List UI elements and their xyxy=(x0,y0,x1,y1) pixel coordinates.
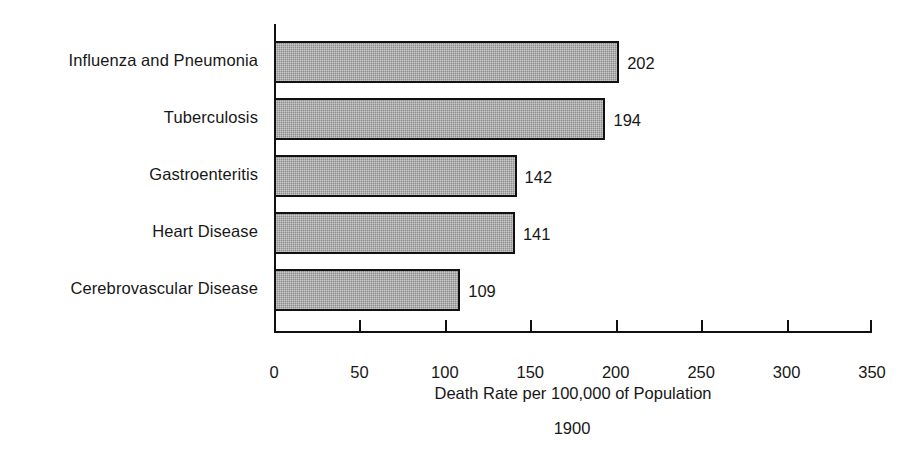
bar-chart: Influenza and Pneumonia Tuberculosis Gas… xyxy=(0,0,922,463)
x-tick-7 xyxy=(870,320,872,333)
x-tick-6 xyxy=(787,320,789,333)
value-label-4: 109 xyxy=(468,283,496,300)
value-label-2: 142 xyxy=(525,169,553,186)
x-tick-label-0: 0 xyxy=(269,364,278,381)
value-label-3: 141 xyxy=(523,226,551,243)
bar-3 xyxy=(274,212,515,254)
value-label-1: 194 xyxy=(613,112,641,129)
x-tick-1 xyxy=(359,320,361,333)
x-axis-title-text: Death Rate per 100,000 of Population xyxy=(434,385,711,402)
bar-1 xyxy=(274,98,605,140)
x-axis-title: Death Rate per 100,000 of Population xyxy=(0,385,922,402)
category-label-text: Heart Disease xyxy=(0,223,258,240)
x-tick-label-6: 300 xyxy=(773,364,801,381)
category-label-3: Heart Disease xyxy=(0,223,258,243)
x-tick-label-7: 350 xyxy=(858,364,886,381)
x-tick-3 xyxy=(530,320,532,333)
category-label-2: Gastroenteritis xyxy=(0,166,258,186)
plot-area: 0 50 100 150 200 250 300 350 202 194 142… xyxy=(274,24,872,333)
x-tick-4 xyxy=(616,320,618,333)
chart-caption-text: 1900 xyxy=(554,420,591,437)
x-tick-0 xyxy=(274,320,276,333)
value-label-0: 202 xyxy=(627,55,655,72)
x-tick-label-3: 150 xyxy=(517,364,545,381)
chart-caption: 1900 xyxy=(0,420,922,437)
category-label-0: Influenza and Pneumonia xyxy=(0,52,258,72)
x-axis-line xyxy=(274,331,872,333)
x-tick-5 xyxy=(701,320,703,333)
x-tick-2 xyxy=(445,320,447,333)
x-tick-label-4: 200 xyxy=(602,364,630,381)
category-label-4: Cerebrovascular Disease xyxy=(0,280,258,300)
bar-4 xyxy=(274,269,460,311)
x-tick-label-1: 50 xyxy=(350,364,368,381)
category-label-text: Gastroenteritis xyxy=(0,166,258,183)
bar-0 xyxy=(274,41,619,83)
category-label-text: Influenza and Pneumonia xyxy=(0,52,258,69)
bar-2 xyxy=(274,155,517,197)
x-tick-label-2: 100 xyxy=(431,364,459,381)
category-label-text: Cerebrovascular Disease xyxy=(0,280,258,297)
category-label-1: Tuberculosis xyxy=(0,109,258,129)
category-label-text: Tuberculosis xyxy=(0,109,258,126)
x-tick-label-5: 250 xyxy=(687,364,715,381)
